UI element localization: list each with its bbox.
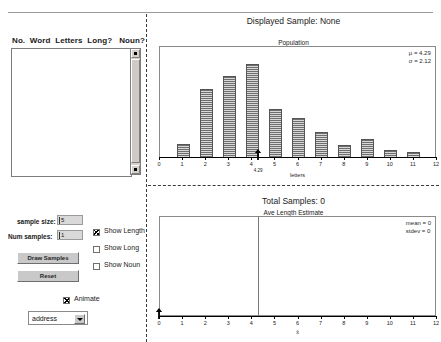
sample-size-label: sample size:	[17, 218, 56, 225]
population-bar	[177, 144, 190, 157]
axis-tick-label: 7	[319, 320, 322, 326]
population-bars	[160, 47, 435, 157]
axis-tick-label: 5	[273, 161, 276, 167]
axis-tick-label: 2	[204, 161, 207, 167]
axis-tick-label: 1	[181, 161, 184, 167]
estimate-mean-reference-line	[258, 216, 259, 316]
animate-label: Animate	[74, 295, 100, 302]
axis-tick-label: 3	[227, 161, 230, 167]
axis-tick-label: 7	[319, 161, 322, 167]
axis-tick-label: 4	[250, 161, 253, 167]
axis-tick	[390, 157, 391, 160]
axis-tick-label: 8	[342, 161, 345, 167]
population-bar	[200, 89, 213, 157]
axis-tick-label: 4	[250, 320, 253, 326]
population-bar	[269, 109, 282, 157]
column-header-long: Long?	[87, 36, 112, 45]
total-samples-label: Total Samples: 0	[148, 196, 439, 206]
axis-tick	[367, 316, 368, 319]
axis-tick-label: 8	[342, 320, 345, 326]
axis-tick	[321, 157, 322, 160]
estimate-chart-title: Ave Length Estimate	[148, 209, 439, 216]
reset-button[interactable]: Reset	[17, 270, 79, 282]
axis-tick	[182, 316, 183, 319]
estimate-x-axis-label: x̄	[159, 329, 436, 335]
axis-tick	[274, 316, 275, 319]
axis-tick-label: 12	[433, 320, 439, 326]
scrollbar-thumb[interactable]	[131, 59, 140, 163]
column-header-noun: Noun?	[119, 36, 145, 45]
axis-tick	[344, 157, 345, 160]
axis-tick	[228, 157, 229, 160]
show-length-label: Show Length	[104, 227, 145, 234]
axis-tick-label: 2	[204, 320, 207, 326]
population-bar	[246, 64, 259, 157]
axis-tick	[413, 157, 414, 160]
axis-tick-label: 3	[227, 320, 230, 326]
population-bar	[223, 76, 236, 157]
num-samples-input[interactable]: 1	[57, 230, 83, 240]
population-bar	[361, 139, 374, 157]
axis-tick	[228, 316, 229, 319]
population-x-ticklabels: 0123456789101112	[159, 161, 436, 170]
word-table-body[interactable]	[11, 48, 132, 177]
axis-tick-label: 12	[433, 161, 439, 167]
axis-tick-label: 6	[296, 161, 299, 167]
axis-tick	[413, 316, 414, 319]
draw-samples-button[interactable]: Draw Samples	[17, 252, 79, 264]
axis-tick-label: 10	[387, 320, 393, 326]
axis-tick-label: 0	[157, 161, 160, 167]
chevron-down-icon[interactable]	[74, 314, 85, 324]
axis-tick-label: 5	[273, 320, 276, 326]
axis-tick	[298, 316, 299, 319]
population-bar	[384, 150, 397, 157]
show-long-label: Show Long	[104, 244, 139, 251]
show-noun-checkbox[interactable]	[93, 263, 100, 270]
column-header-letters: Letters	[55, 36, 82, 45]
population-bar	[315, 132, 328, 157]
axis-tick-label: 11	[410, 320, 416, 326]
column-header-word: Word	[30, 36, 51, 45]
horizontal-divider	[148, 185, 439, 186]
scroll-down-icon[interactable]	[131, 165, 140, 174]
sample-size-input[interactable]: 5	[57, 215, 83, 225]
dataset-select[interactable]: address	[28, 311, 88, 325]
axis-tick-label: 9	[365, 161, 368, 167]
dataset-select-value: address	[32, 315, 57, 322]
axis-tick	[182, 157, 183, 160]
column-header-no: No.	[12, 36, 25, 45]
top-rule	[8, 12, 433, 13]
axis-tick	[251, 157, 252, 160]
word-table-header: No. Word Letters Long? Noun?	[12, 36, 140, 47]
estimate-mean-marker-icon	[156, 308, 163, 319]
estimate-stdev: stdev = 0	[406, 228, 431, 236]
axis-tick	[321, 316, 322, 319]
axis-tick	[436, 157, 437, 160]
axis-tick	[205, 157, 206, 160]
axis-tick	[436, 316, 437, 319]
scroll-up-icon[interactable]	[131, 49, 140, 58]
axis-tick-label: 6	[296, 320, 299, 326]
axis-tick	[205, 316, 206, 319]
estimate-mean: mean = 0	[406, 220, 431, 228]
axis-tick-label: 11	[410, 161, 416, 167]
population-plot-area: μ = 4.29 σ = 2.12	[159, 46, 436, 158]
animate-checkbox[interactable]	[63, 297, 70, 304]
displayed-sample-label: Displayed Sample: None	[148, 16, 439, 26]
estimate-plot-area: mean = 0 stdev = 0	[159, 216, 436, 316]
vertical-divider	[146, 14, 147, 342]
population-bar	[338, 145, 351, 157]
show-length-checkbox[interactable]	[93, 229, 100, 236]
estimate-x-ticklabels: 0123456789101112	[159, 320, 436, 329]
axis-tick	[274, 157, 275, 160]
population-x-axis-label: letters	[159, 172, 436, 178]
axis-tick	[159, 157, 160, 160]
axis-tick	[344, 316, 345, 319]
show-long-checkbox[interactable]	[93, 246, 100, 253]
show-noun-label: Show Noun	[104, 261, 140, 268]
population-mean-marker-icon	[255, 149, 262, 160]
axis-tick	[367, 157, 368, 160]
word-table-scrollbar[interactable]	[130, 48, 141, 175]
axis-tick-label: 0	[157, 320, 160, 326]
population-bar	[292, 118, 305, 157]
